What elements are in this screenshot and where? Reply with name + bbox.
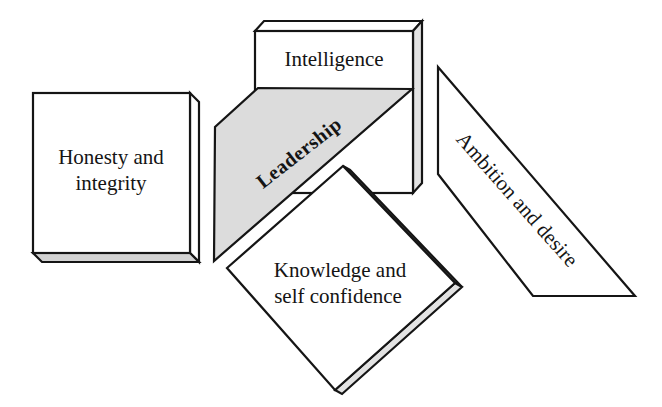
intelligence-box-top-face bbox=[255, 21, 422, 31]
honesty-label-line2: integrity bbox=[75, 171, 147, 195]
honesty-label-line1: Honesty and bbox=[58, 145, 164, 169]
leadership-diagram: Intelligence Honesty and integrity Leade… bbox=[0, 0, 662, 407]
honesty-box-bottom-face bbox=[33, 253, 199, 262]
diagram-canvas: Intelligence Honesty and integrity Leade… bbox=[0, 0, 662, 407]
honesty-box-side-face bbox=[190, 93, 199, 262]
ambition-ribbon bbox=[438, 67, 635, 296]
knowledge-label-line2: self confidence bbox=[274, 284, 402, 308]
intelligence-box-side-face bbox=[413, 21, 422, 193]
knowledge-label-line1: Knowledge and bbox=[274, 258, 407, 282]
intelligence-label: Intelligence bbox=[284, 47, 383, 71]
